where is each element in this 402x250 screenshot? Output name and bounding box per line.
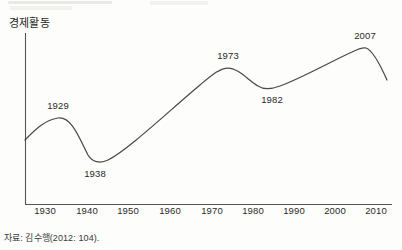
annotation-1929: 1929 (47, 100, 69, 111)
x-tick-label-1990: 1990 (283, 205, 305, 216)
x-tick-label-1950: 1950 (117, 205, 139, 216)
annotation-1938: 1938 (84, 168, 106, 179)
economic-activity-curve (25, 48, 387, 162)
figure-container: 경제활동 1930 1940 1950 1960 1970 1980 1990 … (0, 0, 402, 250)
x-tick-label-2010: 2010 (365, 205, 387, 216)
annotation-1973: 1973 (217, 50, 239, 61)
x-tick-label-1960: 1960 (159, 205, 181, 216)
x-tick-label-1970: 1970 (201, 205, 223, 216)
annotation-1982: 1982 (261, 94, 283, 105)
annotation-2007: 2007 (354, 30, 376, 41)
x-tick-label-1940: 1940 (76, 205, 98, 216)
x-tick-label-1980: 1980 (242, 205, 264, 216)
x-tick-label-2000: 2000 (324, 205, 346, 216)
x-tick-label-1930: 1930 (34, 205, 56, 216)
source-note: 자료: 김수행(2012: 104). (4, 231, 99, 244)
